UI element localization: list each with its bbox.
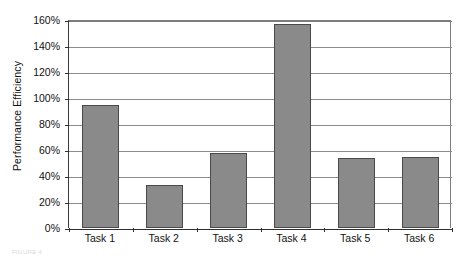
y-tick-mark (65, 73, 69, 74)
y-tick-mark (65, 151, 69, 152)
plot-inner (69, 21, 451, 228)
y-tick-label: 20% (39, 196, 60, 208)
gridline-20pct (69, 203, 452, 204)
bar-task-4 (274, 24, 311, 228)
x-tick-mark (452, 228, 453, 232)
y-tick-label: 160% (33, 14, 60, 26)
bar-chart-figure: Performance Efficiency 0%20%40%60%80%100… (0, 0, 464, 259)
y-tick-mark (65, 47, 69, 48)
caption-fragment: FIGURE 4 (12, 249, 42, 255)
x-tick-label-task-4: Task 4 (276, 232, 306, 244)
x-tick-label-task-5: Task 5 (340, 232, 370, 244)
gridline-40pct (69, 177, 452, 178)
gridline-100pct (69, 99, 452, 100)
x-tick-label-task-2: Task 2 (149, 232, 179, 244)
gridline-60pct (69, 151, 452, 152)
y-axis-title-text: Performance Efficiency (11, 61, 23, 171)
y-tick-label: 140% (33, 40, 60, 52)
y-tick-label: 120% (33, 66, 60, 78)
x-tick-label-task-6: Task 6 (404, 232, 434, 244)
x-tick-label-task-1: Task 1 (85, 232, 115, 244)
gridline-120pct (69, 73, 452, 74)
x-axis-tick-labels: Task 1Task 2Task 3Task 4Task 5Task 6 (68, 232, 451, 248)
y-tick-mark (65, 203, 69, 204)
y-tick-mark (65, 177, 69, 178)
y-tick-label: 80% (39, 118, 60, 130)
bar-task-5 (338, 158, 375, 228)
y-tick-mark (65, 99, 69, 100)
gridline-160pct (69, 21, 452, 22)
gridline-80pct (69, 125, 452, 126)
y-axis-tick-labels: 0%20%40%60%80%100%120%140%160% (26, 12, 64, 228)
y-tick-mark (65, 21, 69, 22)
bar-task-6 (402, 157, 439, 229)
bar-task-2 (146, 185, 183, 228)
bar-task-1 (82, 105, 119, 229)
x-tick-label-task-3: Task 3 (212, 232, 242, 244)
gridline-140pct (69, 47, 452, 48)
bar-task-3 (210, 153, 247, 228)
y-tick-mark (65, 125, 69, 126)
plot-area (68, 20, 451, 228)
y-tick-label: 40% (39, 170, 60, 182)
y-axis-title: Performance Efficiency (6, 0, 28, 232)
y-tick-label: 0% (45, 222, 60, 234)
y-tick-label: 100% (33, 92, 60, 104)
y-tick-label: 60% (39, 144, 60, 156)
